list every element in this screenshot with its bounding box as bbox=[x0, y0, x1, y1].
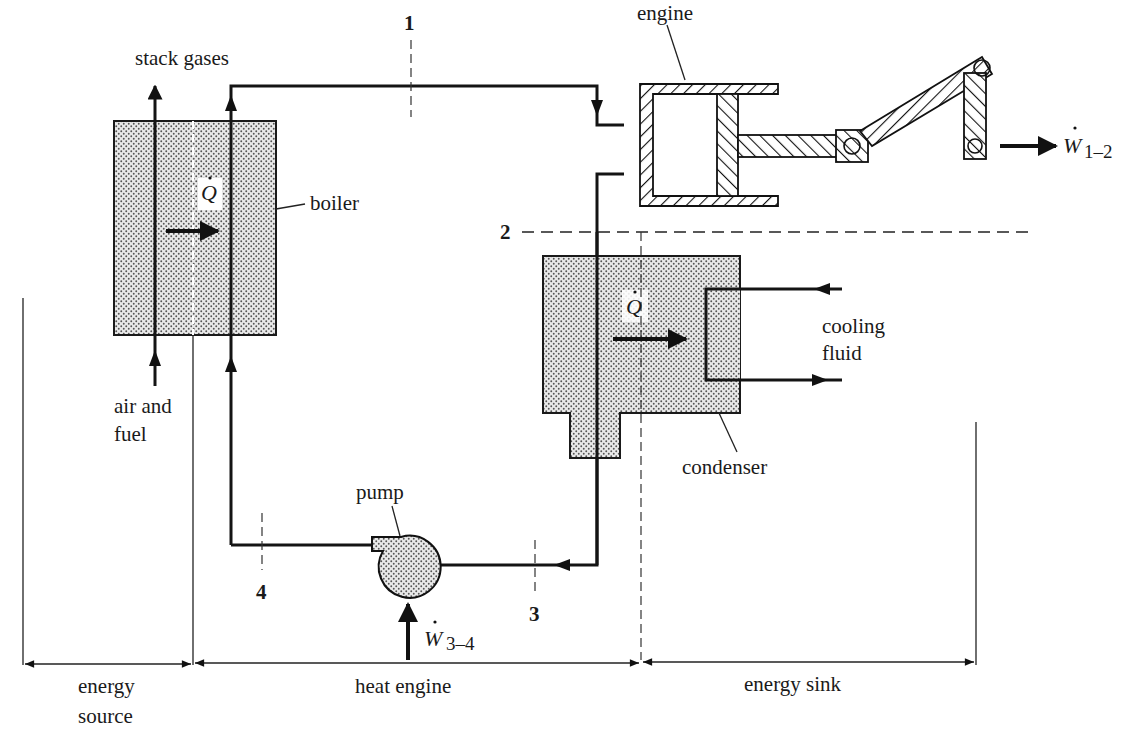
energy-source-label-line2: source bbox=[78, 704, 133, 728]
flow-arrow-icon bbox=[225, 356, 237, 372]
state-3-label: 3 bbox=[529, 602, 540, 626]
flow-arrow-icon bbox=[554, 559, 570, 571]
cooling-outlet-arrow-icon bbox=[812, 374, 828, 386]
cooling-fluid-label-line2: fluid bbox=[822, 341, 862, 365]
condenser bbox=[543, 256, 740, 458]
energy-source-label-line1: energy bbox=[78, 674, 135, 698]
energy-sink-label: energy sink bbox=[744, 672, 842, 696]
state-1-label: 1 bbox=[404, 11, 415, 35]
w-dot-icon bbox=[433, 620, 436, 623]
flow-arrow-icon bbox=[591, 100, 603, 116]
state-2-label: 2 bbox=[500, 220, 511, 244]
engine bbox=[640, 57, 992, 206]
cooling-fluid-label-line1: cooling bbox=[822, 314, 885, 338]
pump-work-subscript: 3–4 bbox=[446, 633, 475, 654]
engine-label: engine bbox=[637, 1, 693, 25]
boiler-leader-line bbox=[276, 204, 305, 209]
stack-gases-label: stack gases bbox=[135, 46, 229, 70]
pump bbox=[372, 536, 441, 598]
boiler bbox=[114, 121, 276, 335]
state-4-label: 4 bbox=[256, 580, 267, 604]
condenser-heat-q-symbol: Q bbox=[626, 294, 642, 319]
flow-arrow-icon bbox=[225, 95, 237, 111]
engine-work-symbol: W bbox=[1063, 133, 1083, 158]
pump-work-symbol: W bbox=[424, 626, 444, 651]
q-dot-icon bbox=[633, 290, 636, 293]
engine-work-subscript: 1–2 bbox=[1084, 141, 1113, 162]
air-fuel-inlet-arrow-icon bbox=[149, 350, 161, 366]
q-dot-icon bbox=[208, 176, 211, 179]
pump-label: pump bbox=[356, 480, 404, 504]
engine-leader-line bbox=[667, 25, 685, 80]
pump-leader-line bbox=[392, 506, 400, 536]
condenser-label: condenser bbox=[682, 455, 767, 479]
w-dot-icon bbox=[1073, 126, 1076, 129]
boiler-heat-q-symbol: Q bbox=[201, 180, 217, 205]
heat-engine-diagram: boiler stack gases air and fuel Q 1 2 3 … bbox=[0, 0, 1140, 746]
air-fuel-label-line1: air and bbox=[114, 394, 172, 418]
heat-engine-label: heat engine bbox=[355, 674, 451, 698]
boiler-label: boiler bbox=[310, 191, 359, 215]
condenser-leader-line bbox=[719, 413, 737, 452]
cooling-inlet-arrow-icon bbox=[814, 283, 830, 295]
air-fuel-label-line2: fuel bbox=[114, 422, 147, 446]
